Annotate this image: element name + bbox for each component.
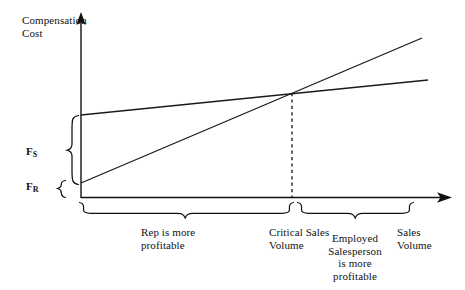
fixed-retainer-label: FR: [26, 180, 39, 192]
fixed-retainer-subscript: R: [33, 185, 39, 194]
fixed-retainer-base: F: [26, 180, 33, 192]
employed-region-brace: [298, 203, 414, 219]
y-axis-title: CompensationCost: [22, 14, 87, 40]
x-axis: [81, 192, 452, 202]
critical-sales-volume-line1: Critical Sales: [269, 226, 329, 238]
fixed-salary-subscript: S: [33, 150, 37, 159]
critical-sales-volume-label: Critical SalesVolume: [269, 226, 329, 251]
employed-region-line2: Salesperson: [328, 245, 382, 257]
fs-brace: [67, 116, 78, 185]
x-axis-title: SalesVolume: [397, 226, 432, 252]
employed-region-label: EmployedSalespersonis moreprofitable: [328, 232, 382, 282]
critical-sales-volume-line2: Volume: [269, 239, 304, 251]
employed-region-line3: is more: [338, 257, 371, 269]
chart-canvas: [0, 0, 465, 290]
y-axis-title-line1: Compensation: [22, 14, 87, 26]
rep-region-label: Rep is moreprofitable: [141, 226, 195, 251]
fixed-salary-base: F: [26, 145, 33, 157]
y-axis-title-line2: Cost: [22, 27, 43, 39]
rep-line: [81, 38, 422, 183]
fr-brace: [58, 181, 66, 198]
employed-region-line1: Employed: [332, 232, 378, 244]
employed-region-line4: profitable: [333, 270, 377, 282]
x-axis-title-line2: Volume: [397, 239, 432, 251]
rep-region-line1: Rep is more: [141, 226, 195, 238]
rep-region-brace: [80, 203, 294, 219]
rep-region-line2: profitable: [141, 239, 185, 251]
x-axis-title-line1: Sales: [397, 226, 421, 238]
compensation-cost-chart: CompensationCost FS FR Rep is moreprofit…: [0, 0, 465, 290]
fixed-salary-label: FS: [26, 145, 37, 157]
